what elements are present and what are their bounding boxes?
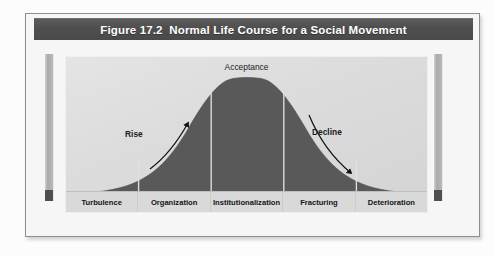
decorative-right-bar xyxy=(434,54,443,201)
stage-label-band: Turbulence Organization Institutionaliza… xyxy=(66,191,427,212)
normal-curve-area xyxy=(66,78,428,195)
stage-label-turbulence: Turbulence xyxy=(66,192,138,212)
chart-panel: Acceptance Rise Decline Turbulence Organ… xyxy=(65,56,428,213)
decorative-left-bar xyxy=(45,54,54,201)
figure-title-bar: Figure 17.2 Normal Life Course for a Soc… xyxy=(34,18,473,40)
stage-label-deterioration: Deterioration xyxy=(356,192,427,212)
bell-curve-chart xyxy=(66,57,428,213)
annotation-acceptance: Acceptance xyxy=(225,62,269,72)
figure-screenshot: Figure 17.2 Normal Life Course for a Soc… xyxy=(0,0,493,256)
figure-frame: Figure 17.2 Normal Life Course for a Soc… xyxy=(25,13,480,237)
decorative-left-bar-foot xyxy=(45,190,53,201)
stage-label-institutionalization: Institutionalization xyxy=(211,192,283,212)
figure-title: Figure 17.2 Normal Life Course for a Soc… xyxy=(100,24,406,36)
annotation-decline: Decline xyxy=(312,127,342,137)
annotation-rise: Rise xyxy=(125,129,143,139)
stage-label-fracturing: Fracturing xyxy=(283,192,355,212)
stage-label-organization: Organization xyxy=(138,192,210,212)
decorative-right-bar-foot xyxy=(434,190,442,201)
